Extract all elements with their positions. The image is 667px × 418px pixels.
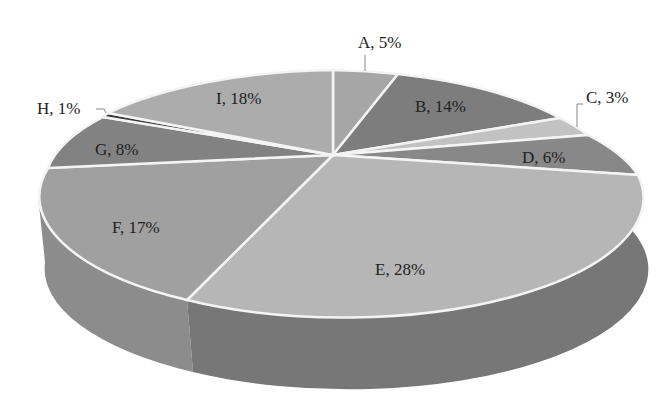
label-c: C, 3%	[586, 88, 629, 107]
label-i: I, 18%	[216, 89, 261, 108]
label-a: A, 5%	[358, 33, 401, 52]
label-f: F, 17%	[112, 218, 160, 237]
label-d: D, 6%	[522, 148, 565, 167]
label-g: G, 8%	[95, 140, 138, 159]
leader-c	[577, 104, 583, 127]
label-e: E, 28%	[375, 260, 425, 279]
pie-chart: A, 5% B, 14% C, 3% D, 6% E, 28% F, 17% G…	[0, 0, 667, 418]
leader-h	[96, 109, 106, 113]
label-h: H, 1%	[37, 99, 80, 118]
pie-chart-svg: A, 5% B, 14% C, 3% D, 6% E, 28% F, 17% G…	[0, 0, 667, 418]
label-b: B, 14%	[415, 97, 466, 116]
